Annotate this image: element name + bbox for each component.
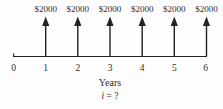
- cash-flow-arrow: $2000: [195, 4, 218, 56]
- cash-flow-amount: $2000: [131, 4, 154, 14]
- arrowhead-up-icon: [171, 17, 178, 27]
- arrowhead-up-icon: [139, 17, 146, 27]
- cash-flow-amount: $2000: [163, 4, 186, 14]
- axis-tick-label: 5: [172, 63, 177, 73]
- cash-flow-arrow: $2000: [67, 4, 90, 56]
- cash-flow-amount: $2000: [67, 4, 90, 14]
- cash-flow-amount: $2000: [99, 4, 122, 14]
- arrowhead-up-icon: [106, 17, 113, 27]
- arrowhead-up-icon: [42, 17, 49, 27]
- cash-flow-arrow: $2000: [131, 4, 154, 56]
- axis-tick-label: 1: [43, 63, 48, 73]
- axis-tick-label: 3: [108, 63, 113, 73]
- cash-flow-arrow: $2000: [99, 4, 122, 56]
- interest-rate-text: i = ?: [102, 91, 119, 101]
- axis-tick-label: 0: [11, 63, 16, 73]
- cash-flow-arrow: $2000: [163, 4, 186, 56]
- cash-flow-amount: $2000: [34, 4, 57, 14]
- arrowhead-up-icon: [203, 17, 210, 27]
- axis-tick-label: 2: [75, 63, 80, 73]
- cash-flow-figure: $2000 $2000 $2000 $2000 $2000 $2000: [0, 0, 223, 109]
- axis-tick-label: 6: [203, 63, 208, 73]
- axis-title: Years: [99, 77, 121, 88]
- cash-flow-diagram: $2000 $2000 $2000 $2000 $2000 $2000: [0, 0, 223, 109]
- cash-flow-amount: $2000: [195, 4, 218, 14]
- cash-flow-arrow: $2000: [34, 4, 57, 56]
- interest-equals-unknown: = ?: [104, 91, 118, 101]
- axis-tick-label: 4: [140, 63, 145, 73]
- arrowhead-up-icon: [74, 17, 81, 27]
